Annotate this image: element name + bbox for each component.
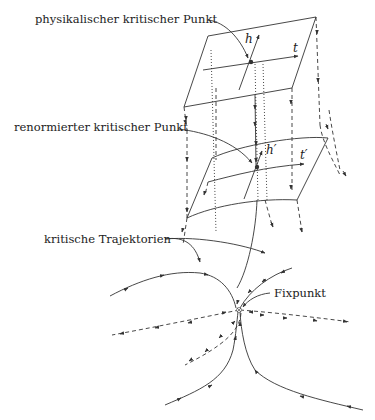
top-plane bbox=[184, 17, 316, 107]
leader-renormalized-critical-point bbox=[178, 129, 252, 163]
rg-flow-diagram bbox=[0, 0, 375, 420]
projection-lines bbox=[211, 50, 267, 232]
label-physical-critical-point: physikalischer kritischer Punkt bbox=[35, 14, 217, 26]
unstable-flow-arrows bbox=[120, 312, 347, 361]
critical-surface-line bbox=[237, 200, 257, 288]
label-fixed-point: Fixpunkt bbox=[274, 288, 326, 300]
axis-label-t: t bbox=[293, 42, 298, 54]
renormalized-critical-point-dot bbox=[255, 165, 259, 169]
axis-label-h-prime: h′ bbox=[266, 144, 276, 156]
label-renormalized-critical-point: renormierter kritischer Punkt bbox=[14, 122, 188, 134]
flow-arrows-middle bbox=[182, 191, 302, 232]
fixed-point-marker bbox=[237, 308, 242, 313]
critical-flow-line bbox=[255, 95, 256, 165]
physical-critical-point-dot bbox=[249, 60, 253, 64]
label-critical-trajectories: kritische Trajektorien bbox=[44, 234, 171, 246]
axis-label-h: h bbox=[245, 33, 253, 45]
flow-lines-upper bbox=[184, 17, 340, 218]
axis-label-t-prime: t′ bbox=[300, 149, 308, 161]
flow-lines-middle bbox=[183, 182, 302, 245]
flow-arrows-upper bbox=[185, 30, 346, 212]
unstable-flows bbox=[112, 310, 351, 365]
